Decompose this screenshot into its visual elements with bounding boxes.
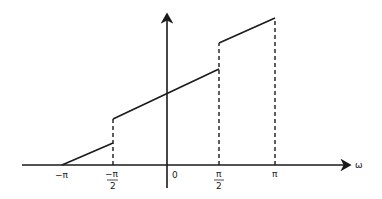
segment-1	[62, 143, 113, 165]
axis-label-omega: ω	[355, 160, 363, 170]
segment-2	[113, 69, 219, 119]
tick-neg-pi-half-num: −π	[105, 169, 119, 179]
piecewise-linear-diagram: −π −π 2 0 π 2 π ω	[0, 0, 382, 199]
tick-pi: π	[272, 169, 278, 179]
tick-zero: 0	[172, 170, 178, 180]
tick-neg-pi: −π	[55, 170, 69, 180]
tick-neg-pi-half-den: 2	[110, 181, 116, 191]
tick-pi-half-num: π	[216, 169, 222, 179]
tick-pi-half-den: 2	[216, 181, 222, 191]
segment-3	[219, 18, 275, 43]
